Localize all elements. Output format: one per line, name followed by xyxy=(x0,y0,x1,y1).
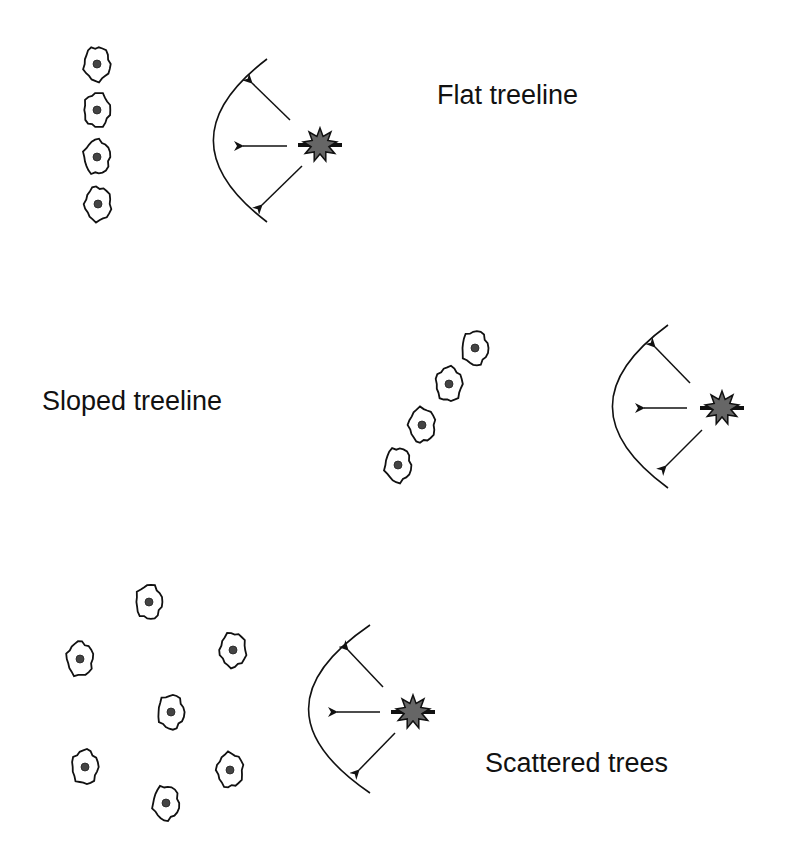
arrow-icon xyxy=(262,166,302,205)
tree-icon xyxy=(136,585,162,619)
tree-icon xyxy=(72,749,99,784)
tree-icon xyxy=(436,366,463,401)
label-flat-treeline: Flat treeline xyxy=(437,82,578,109)
tree-icon xyxy=(216,751,244,787)
arrow-icon xyxy=(252,83,290,120)
tree-icon xyxy=(84,93,110,127)
label-sloped-treeline: Sloped treeline xyxy=(42,388,222,415)
explosion-icon xyxy=(391,695,435,728)
tree-icon xyxy=(219,633,246,668)
tree-icon xyxy=(66,641,93,676)
sound-wavefront-arc xyxy=(612,325,668,488)
explosion-icon xyxy=(298,128,342,161)
tree-icon xyxy=(83,139,110,174)
tree-icon xyxy=(84,186,112,222)
panel-scattered-trees xyxy=(66,585,435,821)
arrow-icon xyxy=(359,733,395,770)
tree-icon xyxy=(152,786,179,821)
tree-icon xyxy=(83,47,111,82)
label-scattered-trees: Scattered trees xyxy=(485,750,668,777)
explosion-icon xyxy=(700,391,744,424)
arrow-icon xyxy=(666,430,702,466)
sound-wavefront-arc xyxy=(213,59,267,222)
diagram-canvas xyxy=(0,0,793,865)
arrow-icon xyxy=(655,347,690,383)
arrow-icon xyxy=(348,650,383,687)
tree-icon xyxy=(463,331,489,365)
tree-icon xyxy=(158,695,184,730)
tree-icon xyxy=(384,448,411,483)
panel-flat-treeline xyxy=(83,47,342,222)
panel-sloped-treeline xyxy=(384,325,744,488)
tree-icon xyxy=(408,406,436,442)
